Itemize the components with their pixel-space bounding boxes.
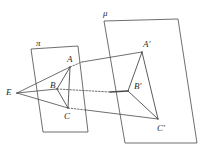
ray-e-b-bprime-far-segment (110, 91, 128, 92)
vertex-dot-c (67, 107, 68, 108)
plane-mu-label: μ (103, 9, 108, 18)
point-label-b-prime: B′ (134, 82, 141, 91)
point-label-c: C (64, 112, 70, 121)
figure-canvas: π μ E A B C A′ B′ C′ (0, 0, 203, 154)
vertex-dot-ap (141, 51, 142, 52)
point-label-a: A (67, 55, 73, 64)
point-label-a-prime: A′ (143, 40, 150, 49)
plane-pi-outline (31, 46, 88, 132)
plane-mu-outline (104, 19, 197, 143)
triangle-a-prime-b-prime-c-prime (128, 52, 158, 119)
vertex-dot-bp (127, 90, 128, 91)
point-label-c-prime: C′ (157, 124, 165, 133)
point-label-b: B (50, 81, 56, 90)
ray-e-c-cprime-far-segment (86, 110, 158, 119)
ray-e-c-cprime-dashed-segment (68, 108, 86, 110)
ray-e-a-aprime-far-segment (82, 52, 142, 62)
vertex-dot-b (56, 88, 57, 89)
triangle-abc (57, 67, 70, 108)
vertex-dot-cp (157, 118, 158, 119)
plane-pi-label: π (36, 39, 41, 48)
geometry-diagram (0, 0, 203, 154)
point-label-e: E (6, 88, 12, 97)
vertex-dot-e (16, 92, 17, 93)
vertex-dot-a (69, 66, 70, 67)
